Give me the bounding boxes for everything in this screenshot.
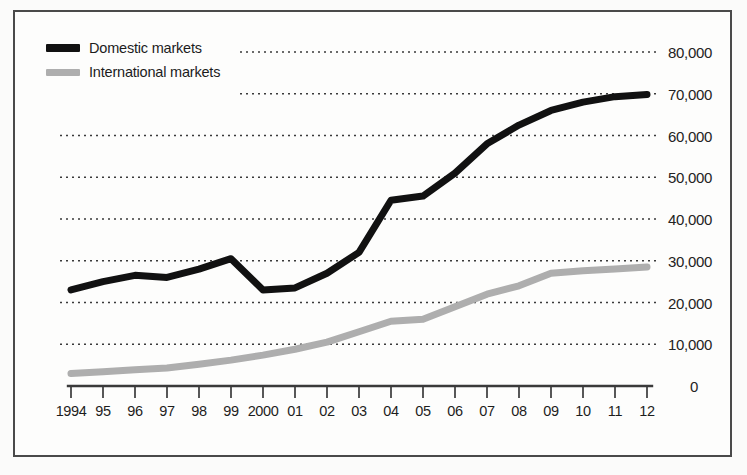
x-axis-tick-label: 96	[127, 403, 142, 419]
chart-figure: Domestic markets International markets 8…	[0, 0, 747, 475]
x-axis-tick-label: 10	[575, 403, 590, 419]
x-axis-tick-label: 04	[383, 403, 398, 419]
x-axis-tick-label: 95	[95, 403, 110, 419]
x-axis-tick-label: 2000	[248, 403, 279, 419]
x-axis-tick-label: 09	[543, 403, 558, 419]
x-axis-tick-label: 11	[608, 403, 622, 419]
x-axis-tick-label: 08	[511, 403, 526, 419]
x-axis-tick-label: 03	[351, 403, 366, 419]
x-axis-tick-label: 07	[479, 403, 494, 419]
x-axis-tick-label: 05	[415, 403, 430, 419]
x-axis-tick-label: 01	[287, 403, 302, 419]
x-axis-tick-label: 06	[447, 403, 462, 419]
x-axis-tick-label: 02	[319, 403, 334, 419]
x-axis-tick-label: 97	[159, 403, 174, 419]
x-axis-tick-label: 99	[223, 403, 238, 419]
x-axis-labels: 1994959697989920000102030405060708091011…	[0, 0, 747, 475]
x-axis-tick-label: 12	[639, 403, 654, 419]
x-axis-tick-label: 98	[191, 403, 206, 419]
x-axis-tick-label: 1994	[56, 403, 87, 419]
